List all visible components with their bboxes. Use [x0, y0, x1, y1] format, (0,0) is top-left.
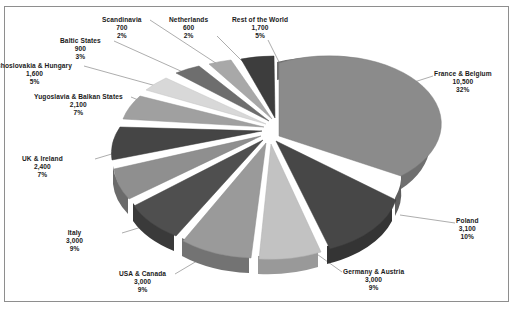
label-percent: 9% — [66, 245, 83, 253]
label-percent: 2% — [102, 32, 142, 40]
slice-side-france-b — [395, 171, 401, 216]
label-scandinavia: Scandinavia 700 2% — [102, 16, 142, 41]
label-name: UK & Ireland — [22, 155, 63, 163]
label-percent: 5% — [0, 78, 72, 86]
label-percent: 9% — [119, 286, 166, 294]
label-name: Italy — [66, 229, 83, 237]
pie-slices — [111, 56, 441, 260]
label-germany-austria: Germany & Austria 3,000 9% — [343, 268, 404, 293]
label-baltic-states: Baltic States 900 3% — [60, 37, 101, 62]
label-percent: 7% — [22, 171, 63, 179]
label-name: France & Belgium — [434, 70, 492, 78]
label-value: 3,000 — [343, 276, 404, 284]
label-percent: 32% — [434, 86, 492, 94]
label-value: 600 — [169, 24, 208, 32]
label-percent: 10% — [456, 233, 479, 241]
label-italy: Italy 3,000 9% — [66, 229, 83, 254]
label-percent: 3% — [60, 53, 101, 61]
label-value: 2,400 — [22, 163, 63, 171]
label-value: 1,700 — [232, 24, 288, 32]
label-value: 10,500 — [434, 78, 492, 86]
label-uk-ireland: UK & Ireland 2,400 7% — [22, 155, 63, 180]
label-name: Rest of the World — [232, 16, 288, 24]
label-france-belgium: France & Belgium 10,500 32% — [434, 70, 492, 95]
label-name: Baltic States — [60, 37, 101, 45]
label-name: Germany & Austria — [343, 268, 404, 276]
label-value: 900 — [60, 45, 101, 53]
label-value: 3,000 — [119, 278, 166, 286]
label-name: USA & Canada — [119, 270, 166, 278]
label-name: Poland — [456, 217, 479, 225]
label-value: 700 — [102, 24, 142, 32]
label-value: 2,100 — [34, 101, 123, 109]
label-value: 1,600 — [0, 70, 72, 78]
label-value: 3,000 — [66, 237, 83, 245]
label-name: Netherlands — [169, 16, 208, 24]
label-usa-canada: USA & Canada 3,000 9% — [119, 270, 166, 295]
leader-line-poland — [400, 215, 455, 223]
label-name: Scandinavia — [102, 16, 142, 24]
label-czechoslovakia-hungary: choslovakia & Hungary 1,600 5% — [0, 62, 72, 87]
label-name: Yugoslavia & Balkan States — [34, 93, 123, 101]
label-percent: 9% — [343, 284, 404, 292]
label-poland: Poland 3,100 10% — [456, 217, 479, 242]
label-netherlands: Netherlands 600 2% — [169, 16, 208, 41]
label-value: 3,100 — [456, 225, 479, 233]
label-percent: 5% — [232, 32, 288, 40]
label-rest-of-the-world: Rest of the World 1,700 5% — [232, 16, 288, 41]
label-percent: 7% — [34, 109, 123, 117]
label-percent: 2% — [169, 32, 208, 40]
label-yugoslavia-balkan-states: Yugoslavia & Balkan States 2,100 7% — [34, 93, 123, 118]
label-name: choslovakia & Hungary — [0, 62, 72, 70]
